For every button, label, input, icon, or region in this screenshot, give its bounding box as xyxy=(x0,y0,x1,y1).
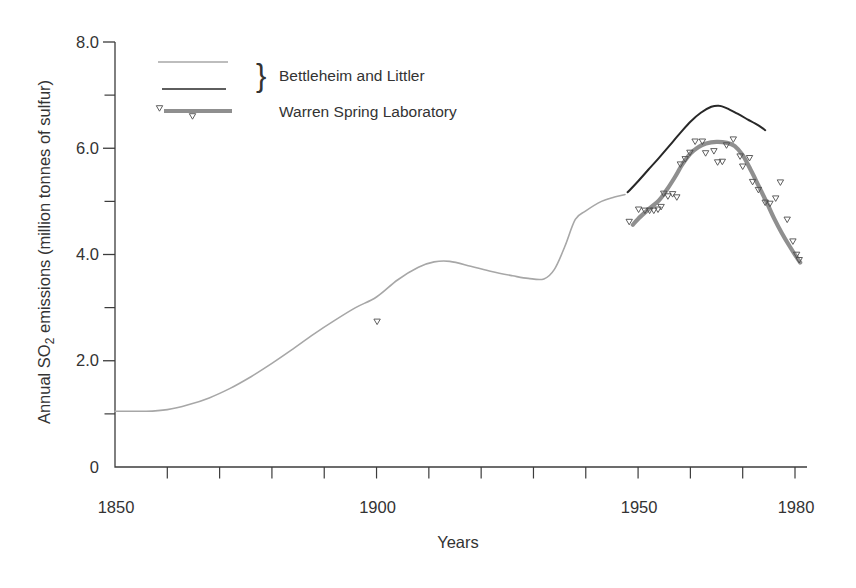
y-axis-label: Annual SO2 emissions (million tonnes of … xyxy=(35,80,57,424)
triangle-down-marker-icon xyxy=(773,196,779,202)
legend-warren-triangle-icon xyxy=(156,106,162,112)
x-axis-tick-labels: 1850190019501980 xyxy=(98,498,815,516)
y-tick-label: 2.0 xyxy=(76,351,99,369)
warren_points-markers xyxy=(374,137,803,325)
axes xyxy=(115,42,807,467)
y-axis-label-rest: emissions (million tonnes of sulfur) xyxy=(35,80,53,338)
legend-warren-triangle-icon xyxy=(189,114,195,120)
y-axis-ticks xyxy=(103,42,115,414)
legend-warren-label: Warren Spring Laboratory xyxy=(279,103,457,120)
triangle-down-marker-icon xyxy=(740,164,746,170)
so2-emissions-chart: 02.04.06.08.0 1850190019501980 Years Ann… xyxy=(0,0,856,588)
triangle-down-marker-icon xyxy=(692,139,698,145)
x-axis-label: Years xyxy=(437,533,479,551)
triangle-down-marker-icon xyxy=(702,151,708,157)
triangle-down-marker-icon xyxy=(790,239,796,245)
triangle-down-marker-icon xyxy=(635,207,641,213)
legend-bettleheim-label: Bettleheim and Littler xyxy=(279,67,425,84)
x-axis-ticks xyxy=(167,467,795,479)
triangle-down-marker-icon xyxy=(711,149,717,155)
y-axis-label-main: Annual SO xyxy=(35,344,53,424)
y-axis-tick-labels: 02.04.06.08.0 xyxy=(76,33,99,476)
triangle-down-marker-icon xyxy=(374,319,380,325)
historical-curve xyxy=(115,195,625,412)
y-tick-label: 6.0 xyxy=(76,139,99,157)
data-series-layer xyxy=(115,106,802,412)
legend: } Bettleheim and Littler Warren Spring L… xyxy=(156,58,457,120)
y-tick-label: 8.0 xyxy=(76,33,99,51)
x-tick-label: 1980 xyxy=(778,498,815,516)
x-tick-label: 1850 xyxy=(98,498,135,516)
y-tick-label: 4.0 xyxy=(76,245,99,263)
triangle-down-marker-icon xyxy=(777,180,783,186)
legend-brace: } xyxy=(256,58,266,93)
y-tick-label: 0 xyxy=(90,458,99,476)
triangle-down-marker-icon xyxy=(730,137,736,143)
so2-emissions-figure: 02.04.06.08.0 1850190019501980 Years Ann… xyxy=(0,0,856,588)
triangle-down-marker-icon xyxy=(784,217,790,223)
triangle-down-marker-icon xyxy=(674,195,680,201)
x-tick-label: 1900 xyxy=(359,498,396,516)
triangle-down-marker-icon xyxy=(665,194,671,200)
x-tick-label: 1950 xyxy=(621,498,658,516)
